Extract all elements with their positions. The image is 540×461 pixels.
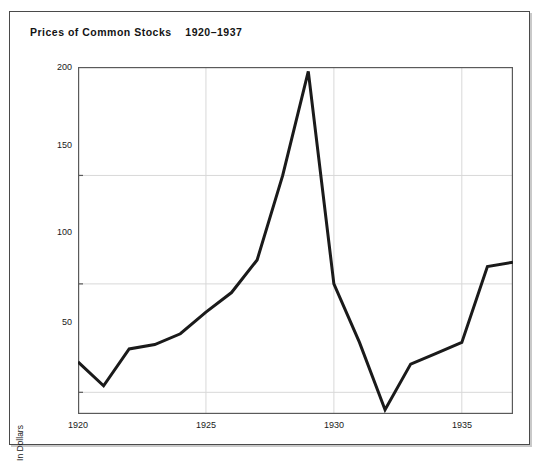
x-tick-label-1930: 1930 [314, 420, 354, 430]
y-tick-label-50: 50 [32, 317, 72, 327]
line-chart-svg [78, 67, 513, 414]
plot-area [78, 67, 513, 414]
y-axis-title: In Dollars [15, 425, 25, 461]
y-tick-label-100: 100 [32, 227, 72, 237]
y-tick-label-150: 150 [32, 140, 72, 150]
x-tick-label-1920: 1920 [58, 420, 98, 430]
x-tick-label-1935: 1935 [442, 420, 482, 430]
y-tick-label-200: 200 [32, 62, 72, 72]
data-line-series-0 [78, 71, 513, 409]
x-tick-label-1925: 1925 [186, 420, 226, 430]
y-axis-title-wrap: In Dollars [22, 210, 36, 290]
chart-title: Prices of Common Stocks 1920–1937 [30, 26, 242, 38]
